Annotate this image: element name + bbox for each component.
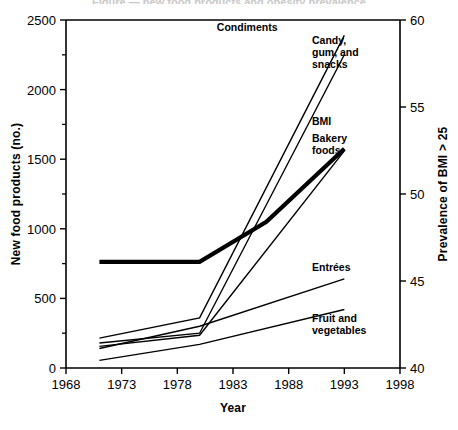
y-tick-label-500: 500	[34, 291, 56, 306]
x-tick-label-1993: 1993	[330, 377, 359, 392]
series-line-fruit-and-vegetables	[99, 310, 344, 361]
series-label-line: Fruit and	[312, 312, 357, 324]
x-tick-label-1978: 1978	[163, 377, 192, 392]
y-tick-label-1000: 1000	[27, 222, 56, 237]
x-tick-label-1983: 1983	[219, 377, 248, 392]
series-label-line: Entrées	[312, 261, 351, 273]
series-label-condiments: Condiments	[217, 21, 278, 33]
x-axis-title: Year	[220, 401, 246, 415]
series-label-fruit-and-vegetables: Fruit andvegetables	[312, 312, 366, 336]
y-tick-label-2000: 2000	[27, 83, 56, 98]
series-line-condiments	[99, 35, 344, 338]
y2-tick-label-60: 60	[410, 13, 424, 28]
y2-tick-label-45: 45	[410, 274, 424, 289]
y2-tick-label-50: 50	[410, 187, 424, 202]
line-chart: 1968197319781983198819931998Year05001000…	[0, 0, 458, 430]
y-axis-title: New food products (no.)	[9, 123, 23, 266]
series-label-line: Candy,	[312, 34, 346, 46]
x-tick-label-1988: 1988	[274, 377, 303, 392]
y-tick-label-0: 0	[49, 361, 56, 376]
series-label-line: foods	[312, 144, 341, 156]
figure-root: Figure — new food products and obesity p…	[0, 0, 458, 430]
series-label-line: gum, and	[312, 46, 359, 58]
series-label-line: BMI	[312, 115, 331, 127]
series-label-candy-gum-and-snacks: Candy,gum, andsnacks	[312, 34, 359, 70]
y-tick-label-2500: 2500	[27, 13, 56, 28]
series-label-line: vegetables	[312, 324, 366, 336]
series-label-bmi: BMI	[312, 115, 331, 127]
series-label-line: Condiments	[217, 21, 278, 33]
series-line-bmi	[99, 149, 344, 262]
series-label-line: snacks	[312, 58, 348, 70]
x-tick-label-1968: 1968	[52, 377, 81, 392]
y2-tick-label-40: 40	[410, 361, 424, 376]
y-tick-label-1500: 1500	[27, 152, 56, 167]
x-tick-label-1973: 1973	[107, 377, 136, 392]
y2-tick-label-55: 55	[410, 100, 424, 115]
series-label-entr-es: Entrées	[312, 261, 351, 273]
series-line-candy-gum-and-snacks	[99, 55, 344, 343]
cropped-figure-title: Figure — new food products and obesity p…	[0, 0, 458, 4]
y2-axis-title: Prevalence of BMI > 25	[436, 126, 450, 261]
series-label-line: Bakery	[312, 132, 347, 144]
x-tick-label-1998: 1998	[386, 377, 415, 392]
